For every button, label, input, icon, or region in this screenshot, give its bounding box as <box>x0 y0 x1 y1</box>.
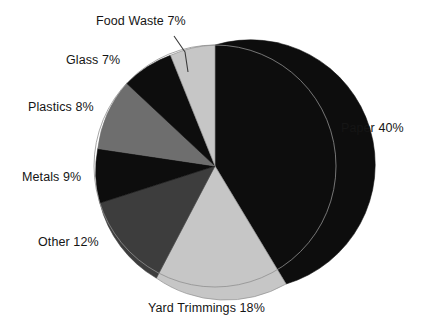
pie-label-paper: Paper 40% <box>341 121 404 135</box>
pie-label-plastics: Plastics 8% <box>28 100 94 114</box>
pie-label-glass: Glass 7% <box>66 53 120 67</box>
pie-label-metals: Metals 9% <box>22 170 81 184</box>
pie-label-other: Other 12% <box>38 235 99 249</box>
pie-label-yard-trimmings: Yard Trimmings 18% <box>148 301 265 315</box>
pie-label-food-waste: Food Waste 7% <box>96 14 186 28</box>
pie-chart: Food Waste 7% Glass 7% Plastics 8% Metal… <box>0 0 428 323</box>
pie-chart-graphic <box>0 0 428 323</box>
